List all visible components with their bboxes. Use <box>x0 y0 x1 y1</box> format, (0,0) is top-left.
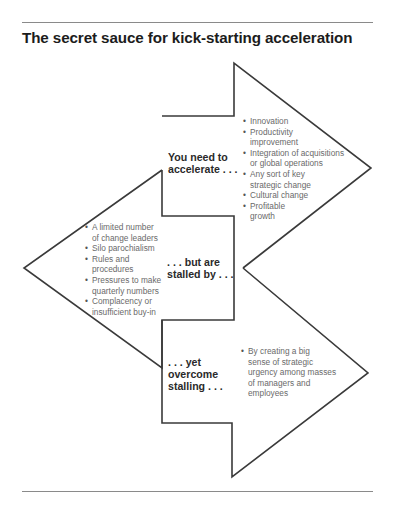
stalled-label: . . . but are stalled by . . . <box>167 256 234 280</box>
list-item: Integration of acquisitions or global op… <box>243 148 344 169</box>
accelerate-bullet-list: Innovation Productivity improvement Inte… <box>243 116 344 222</box>
list-item: Cultural change <box>243 190 344 201</box>
list-item: Pressures to make quarterly numbers <box>85 275 161 296</box>
list-item: Profitable growth <box>243 201 344 222</box>
list-item: Complacency or insufficient buy-in <box>85 296 161 317</box>
list-item: Rules and procedures <box>85 254 161 275</box>
list-item: By creating a big sense of strategic urg… <box>241 346 336 399</box>
bottom-rule <box>22 491 373 492</box>
accelerate-label: You need to accelerate . . . <box>168 151 238 175</box>
stalled-bullet-list: A limited number of change leaders Silo … <box>85 222 161 317</box>
list-item: Silo parochialism <box>85 243 161 254</box>
overcome-label: . . . yet overcome stalling . . . <box>168 356 223 392</box>
list-item: Innovation <box>243 116 344 127</box>
list-item: A limited number of change leaders <box>85 222 161 243</box>
overcome-bullet-list: By creating a big sense of strategic urg… <box>241 346 336 399</box>
list-item: Any sort of key strategic change <box>243 169 344 190</box>
list-item: Productivity improvement <box>243 127 344 148</box>
